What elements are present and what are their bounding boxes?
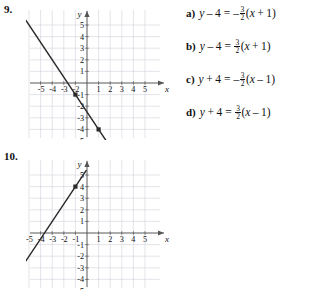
answer-letter-b: b)	[186, 40, 196, 52]
y-tick-label: 1	[80, 67, 84, 76]
y-tick-label: 5	[80, 21, 84, 30]
answer-c-frac-denominator: 2	[240, 79, 246, 88]
answer-c-fraction: 32	[240, 72, 246, 88]
answer-a-lhs-op: –	[207, 7, 213, 19]
answer-c-lhs-op: +	[206, 73, 213, 85]
answer-c-lhs-var: y	[199, 73, 204, 85]
y-tick-label: -3	[77, 114, 84, 123]
y-tick-label: -3	[77, 264, 84, 273]
answer-d-rhs-var: x	[245, 106, 250, 118]
x-tick-label: 2	[108, 85, 112, 94]
answer-b-rhs-op: +	[252, 40, 259, 52]
plotted-point	[73, 185, 77, 189]
y-tick-label: 2	[80, 206, 84, 215]
x-tick-label: 5	[143, 235, 147, 244]
answer-c-equals: =	[224, 73, 231, 85]
y-tick-label: 4	[80, 33, 84, 42]
plotted-line	[26, 20, 110, 140]
x-tick-label: 4	[131, 235, 135, 244]
y-tick-label: -1	[77, 241, 84, 250]
answer-b-paren-close: )	[267, 40, 271, 52]
answer-b-frac-numerator: 3	[234, 39, 240, 47]
answer-letter-a: a)	[186, 7, 195, 19]
worksheet-page: 9. -5-4-3-21234554321-1-2-3-4-5xy 10. -5…	[0, 0, 315, 292]
coordinate-graph-9: -5-4-3-21234554321-1-2-3-4-5xy	[26, 8, 172, 140]
x-tick-label: 2	[108, 235, 112, 244]
y-axis-label: y	[77, 159, 82, 169]
x-tick-label: 3	[120, 235, 124, 244]
answer-choice-a[interactable]: a)y–4=–32(x+1)	[186, 6, 315, 39]
answer-b-fraction: 32	[234, 39, 240, 55]
x-tick-label: -3	[61, 85, 68, 94]
answer-c-paren-close: )	[271, 73, 275, 85]
y-tick-label: 4	[80, 183, 84, 192]
answer-a-frac-denominator: 2	[240, 13, 246, 22]
answer-a-rhs-op: +	[257, 7, 264, 19]
answer-d-fraction: 32	[235, 105, 241, 121]
answer-choices-list: a)y–4=–32(x+1) b)y–4=32(x+1) c)y+4=–32(x…	[186, 6, 315, 138]
answer-choice-d[interactable]: d)y+4=32(x–1)	[186, 105, 315, 138]
answer-d-frac-numerator: 3	[235, 105, 241, 113]
answer-a-frac-numerator: 3	[240, 6, 246, 14]
plotted-point	[97, 127, 101, 131]
y-tick-label: 3	[80, 194, 84, 203]
x-tick-label: 3	[120, 85, 124, 94]
answer-b-rhs-var: x	[244, 40, 249, 52]
y-tick-label: -4	[77, 275, 84, 284]
answer-d-frac-denominator: 2	[235, 112, 241, 121]
y-tick-label: -5	[77, 287, 84, 290]
y-tick-label: 2	[80, 56, 84, 65]
x-tick-label: -5	[26, 235, 33, 244]
answer-choice-c[interactable]: c)y+4=–32(x–1)	[186, 72, 315, 105]
x-tick-label: -5	[38, 85, 45, 94]
answer-a-paren-close: )	[272, 7, 276, 19]
answer-b-equals: =	[224, 40, 231, 52]
x-axis-label: x	[164, 234, 169, 244]
answer-b-lhs-op: –	[207, 40, 213, 52]
answer-d-lhs-num: 4	[216, 106, 222, 118]
answer-d-equals: =	[225, 106, 232, 118]
x-tick-label: 4	[131, 85, 135, 94]
x-tick-label: -4	[49, 85, 56, 94]
answer-d-lhs-op: +	[207, 106, 214, 118]
coordinate-graph-10: -5-4-3-2-11234554321-1-2-3-4-5xy	[26, 158, 172, 290]
answer-c-rhs-op: –	[257, 73, 263, 85]
y-tick-label: -5	[77, 137, 84, 140]
answer-d-rhs-op: –	[253, 106, 259, 118]
x-tick-label: 1	[97, 85, 101, 94]
plotted-point	[73, 93, 77, 97]
x-tick-label: 5	[143, 85, 147, 94]
answer-a-sign: –	[233, 7, 239, 19]
answer-c-frac-numerator: 3	[240, 72, 246, 80]
answer-b-lhs-num: 4	[216, 40, 222, 52]
x-tick-label: -3	[49, 235, 56, 244]
y-tick-label: -2	[77, 252, 84, 261]
x-tick-label: 1	[97, 235, 101, 244]
answer-d-paren-close: )	[267, 106, 271, 118]
answer-a-equals: =	[224, 7, 231, 19]
answer-a-rhs-var: x	[250, 7, 255, 19]
answer-a-lhs-num: 4	[215, 7, 221, 19]
problem-number-9: 9.	[4, 3, 12, 15]
answer-letter-c: c)	[186, 73, 195, 85]
answer-d-lhs-var: y	[200, 106, 205, 118]
problem-number-10: 10.	[4, 150, 18, 162]
y-axis-label: y	[77, 9, 82, 19]
answer-choice-b[interactable]: b)y–4=32(x+1)	[186, 39, 315, 72]
x-axis-label: x	[164, 84, 169, 94]
answer-c-sign: –	[233, 73, 239, 85]
y-tick-label: -4	[77, 125, 84, 134]
y-tick-label: 3	[80, 44, 84, 53]
answer-c-lhs-num: 4	[215, 73, 221, 85]
answer-a-fraction: 32	[240, 6, 246, 22]
answer-b-lhs-var: y	[200, 40, 205, 52]
answer-letter-d: d)	[186, 106, 196, 118]
x-tick-label: -2	[61, 235, 68, 244]
answer-a-lhs-var: y	[199, 7, 204, 19]
answer-b-frac-denominator: 2	[234, 46, 240, 55]
answer-c-rhs-var: x	[250, 73, 255, 85]
y-tick-label: 1	[80, 217, 84, 226]
